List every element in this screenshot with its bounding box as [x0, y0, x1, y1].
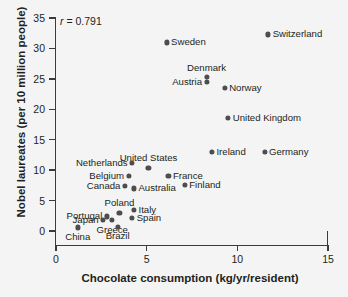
point-label: Switzerland [273, 29, 323, 39]
point-label: Germany [269, 147, 308, 157]
x-tick-label-5: 5 [127, 254, 167, 265]
point-label: Ireland [216, 147, 245, 157]
y-tick-15 [49, 139, 55, 140]
x-tick-label-10: 10 [217, 254, 257, 265]
y-tick-label-0: 0 [0, 226, 45, 237]
point-label: United Kingdom [233, 113, 301, 123]
y-tick-25 [49, 78, 55, 79]
y-axis-title: Nobel laureates (per 10 million people) [15, 0, 27, 227]
x-axis-right-stub [327, 231, 328, 246]
x-tick-label-0: 0 [36, 254, 76, 265]
point-label: Austria [172, 77, 202, 87]
x-tick-label-15: 15 [308, 254, 348, 265]
y-tick-30 [49, 48, 55, 49]
point-label: Spain [137, 213, 162, 223]
x-axis-line [55, 245, 329, 246]
y-tick-20 [49, 109, 55, 110]
point-label: Denmark [187, 63, 226, 73]
point-label: Canada [87, 181, 121, 191]
point-label: Norway [229, 83, 262, 93]
point-label: China [65, 232, 90, 242]
point-label: Japan [73, 215, 99, 225]
x-tick-10 [237, 245, 238, 251]
x-tick-5 [146, 245, 147, 251]
y-tick-35 [49, 17, 55, 18]
point-label: United States [120, 153, 178, 163]
x-tick-0 [55, 245, 56, 251]
point-label: Poland [105, 198, 135, 208]
y-tick-0 [49, 230, 55, 231]
y-tick-10 [49, 169, 55, 170]
x-axis-title: Chocolate consumption (kg/yr/resident) [40, 272, 340, 284]
scatter-chart: r = 0.791 05101520253035 051015 Nobel la… [0, 0, 348, 297]
point-label: Australia [138, 183, 175, 193]
point-label: Brazil [106, 231, 130, 241]
y-axis-lower-stub [55, 231, 56, 246]
y-tick-5 [49, 200, 55, 201]
x-tick-15 [327, 245, 328, 251]
point-label: Finland [189, 180, 220, 190]
plot-area [56, 18, 328, 231]
point-label: Sweden [171, 37, 206, 47]
